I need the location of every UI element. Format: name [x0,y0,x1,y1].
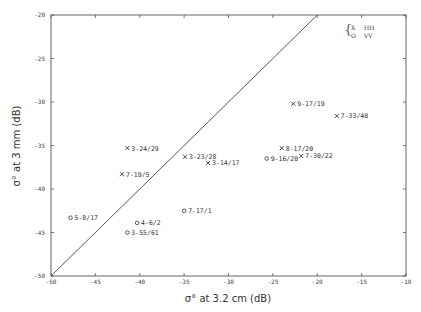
y-axis: -20-25-30-35-40-45-50 [34,11,406,279]
y-tick-label: -35 [34,142,45,149]
x-tick-label: -50 [46,278,57,285]
point-label: 5-8/17 [75,214,99,222]
vv-point: 3-55/61 [126,229,159,237]
legend-vv-marker: O [351,32,356,39]
y-tick-label: -40 [34,185,45,192]
y-tick-label: -45 [34,229,45,236]
point-label: 3-24/29 [131,145,158,153]
point-label: 4-6/2 [141,219,161,227]
hh-point: 7-19/5 [120,171,150,179]
x-tick-label: -10 [401,278,412,285]
point-label: 7-17/1 [188,207,212,215]
hh-point: 8-17/20 [280,145,313,153]
data-points: 9-17/197-33/408-17/207-30/223-24/293-23/… [69,100,369,237]
x-tick-label: -40 [134,278,145,285]
x-tick-label: -25 [267,278,278,285]
y-tick-label: -25 [34,55,45,62]
one-to-one-line [51,15,317,276]
vv-point: 7-17/1 [182,207,211,215]
legend-hh-label: HH [364,24,374,31]
point-label: 7-33/40 [341,112,368,120]
x-tick-label: -15 [356,278,367,285]
point-label: 9-16/20 [271,155,298,163]
x-tick-label: -45 [90,278,101,285]
legend: { X HH O VV [344,22,374,39]
hh-point: 3-14/17 [206,159,239,167]
x-tick-label: -20 [312,278,323,285]
scatter-chart: -50-45-40-35-30-25-20-15-10 -20-25-30-35… [0,0,421,312]
point-label: 9-17/19 [297,100,324,108]
legend-hh-marker: X [351,24,356,31]
hh-point: 7-30/22 [299,152,332,160]
hh-point: 9-17/19 [291,100,324,108]
y-tick-label: -50 [34,272,45,279]
plot-frame [51,15,406,276]
point-label: 7-19/5 [126,171,150,179]
x-tick-label: -30 [223,278,234,285]
y-tick-label: -30 [34,98,45,105]
reference-line [51,15,317,276]
x-axis: -50-45-40-35-30-25-20-15-10 [46,15,412,285]
y-tick-label: -20 [34,11,45,18]
hh-point: 7-33/40 [335,112,368,120]
hh-point: 3-24/29 [125,145,158,153]
y-axis-title: σ° at 3 mm (dB) [11,105,22,186]
legend-vv-label: VV [363,32,373,39]
vv-point: 4-6/2 [135,219,160,227]
vv-point: 9-16/20 [265,155,298,163]
point-label: 7-30/22 [305,152,332,160]
x-tick-label: -35 [179,278,190,285]
point-label: 3-55/61 [131,229,158,237]
point-label: 8-17/20 [286,145,313,153]
x-axis-title: σ° at 3.2 cm (dB) [185,293,271,304]
vv-point: 5-8/17 [69,214,98,222]
point-label: 3-14/17 [212,159,239,167]
